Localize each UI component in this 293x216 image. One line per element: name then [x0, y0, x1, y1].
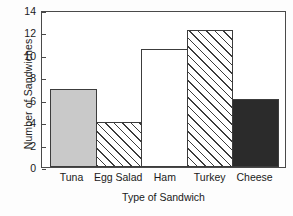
- x-axis-title: Type of Sandwich: [41, 191, 286, 203]
- x-axis-tick-labels: TunaEgg SaladHamTurkeyCheese: [49, 171, 277, 183]
- y-axis-tick-label: 12: [24, 27, 36, 39]
- y-axis-tick-mark: [42, 57, 46, 58]
- plot-area: [41, 11, 286, 168]
- y-axis-tick-mark: [42, 169, 46, 170]
- bar-tuna: [50, 89, 97, 168]
- plot-inner: [42, 12, 285, 167]
- y-axis-tick-mark: [42, 102, 46, 103]
- x-axis-tick-label: Cheese: [232, 171, 277, 183]
- y-axis-tick-label: 0: [30, 162, 36, 174]
- bar-ham: [141, 49, 188, 167]
- y-axis-tick-label: 14: [24, 5, 36, 17]
- y-axis-tick-labels: 02468101214: [10, 11, 36, 168]
- y-axis-tick-label: 2: [30, 140, 36, 152]
- x-axis-tick-label: Egg Salad: [94, 171, 142, 183]
- y-axis-tick-label: 8: [30, 72, 36, 84]
- y-axis-tick-label: 10: [24, 50, 36, 62]
- bar-egg-salad: [96, 122, 143, 167]
- y-axis-tick-mark: [42, 34, 46, 35]
- bar-group: [50, 12, 278, 167]
- y-axis-tick-mark: [42, 147, 46, 148]
- y-axis-tick-mark: [42, 124, 46, 125]
- x-axis-tick-label: Turkey: [187, 171, 232, 183]
- y-axis-tick-mark: [42, 12, 46, 13]
- y-axis-tick-label: 4: [30, 117, 36, 129]
- bar-chart: Number of Sandwiches 02468101214 TunaEgg…: [0, 0, 293, 216]
- y-axis-tick-label: 6: [30, 95, 36, 107]
- bar-turkey: [187, 30, 234, 167]
- bar-cheese: [232, 99, 279, 167]
- x-axis-tick-label: Ham: [142, 171, 187, 183]
- x-axis-tick-label: Tuna: [49, 171, 94, 183]
- y-axis-tick-mark: [42, 79, 46, 80]
